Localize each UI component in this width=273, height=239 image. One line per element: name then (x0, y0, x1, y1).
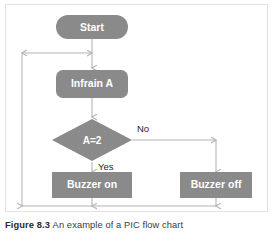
node-buzzer-off[interactable]: Buzzer off (180, 172, 252, 198)
flow-chart-panel: Start Infrain A A=2 Buzzer on Buzzer off (5, 4, 268, 212)
node-buzzer-on-label: Buzzer on (67, 178, 117, 190)
node-infrain-a-label: Infrain A (71, 77, 114, 89)
node-decision-a-equals-2[interactable]: A=2 (52, 119, 132, 161)
edge-label-no: No (137, 123, 149, 134)
node-buzzer-on[interactable]: Buzzer on (52, 172, 132, 198)
edge-label-yes: Yes (98, 161, 114, 172)
node-buzzer-off-label: Buzzer off (191, 178, 242, 190)
figure-caption-text: An example of a PIC flow chart (53, 220, 184, 230)
node-start-label: Start (80, 21, 104, 33)
node-infrain-a[interactable]: Infrain A (56, 70, 128, 98)
node-decision-label: A=2 (83, 135, 102, 146)
figure-container: Start Infrain A A=2 Buzzer on Buzzer off (0, 0, 273, 239)
figure-caption: Figure 8.3 An example of a PIC flow char… (5, 219, 268, 239)
flow-chart-svg: Start Infrain A A=2 Buzzer on Buzzer off (6, 5, 268, 212)
node-start[interactable]: Start (56, 15, 128, 39)
figure-caption-label: Figure 8.3 (5, 220, 50, 230)
